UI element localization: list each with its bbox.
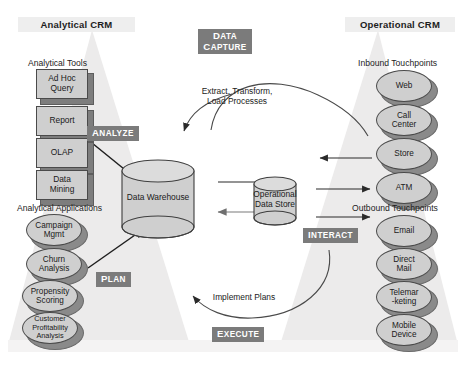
tool-label: Ad HocQuery: [36, 69, 88, 99]
touchpoint-label: DirectMail: [376, 248, 432, 280]
crm-architecture-diagram: Analytical CRM Operational CRM Analytica…: [0, 0, 465, 365]
tool-report[interactable]: Report: [36, 106, 88, 136]
touchpoint-label: MobileDevice: [376, 314, 432, 346]
badge-analyze-label: ANALYZE: [92, 128, 134, 139]
badge-data-capture-label: DATACAPTURE: [203, 31, 247, 52]
data-warehouse-label: Data Warehouse: [122, 193, 194, 203]
touchpoint-label: Email: [376, 215, 432, 247]
app-propensity-scoring[interactable]: PropensityScoring: [22, 280, 78, 312]
tool-label: Report: [36, 106, 88, 136]
badge-plan[interactable]: PLAN: [96, 272, 131, 287]
badge-interact-label: INTERACT: [308, 230, 353, 241]
tool-label: OLAP: [36, 138, 88, 168]
app-label: CampaignMgmt: [26, 214, 82, 246]
tool-ad-hoc-query[interactable]: Ad HocQuery: [36, 69, 88, 99]
touchpoint-label: Store: [376, 138, 432, 170]
touchpoint-label: ATM: [376, 172, 432, 204]
badge-data-capture[interactable]: DATACAPTURE: [198, 29, 252, 54]
touchpoint-telemarketing[interactable]: Telemar-keting: [376, 281, 432, 313]
tool-data-mining[interactable]: DataMining: [36, 170, 88, 200]
panel-title-operational-crm: Operational CRM: [345, 17, 455, 32]
implement-plans-label: Implement Plans: [182, 292, 306, 302]
badge-plan-label: PLAN: [101, 274, 126, 285]
etl-label: Extract, Transform,Load Processes: [175, 86, 299, 106]
app-label: PropensityScoring: [22, 280, 78, 312]
implement-plans-curve: [193, 250, 330, 318]
badge-interact[interactable]: INTERACT: [303, 228, 358, 243]
touchpoint-label: Web: [376, 70, 432, 102]
touchpoint-store[interactable]: Store: [376, 138, 432, 170]
badge-execute-label: EXECUTE: [217, 329, 259, 340]
touchpoint-direct-mail[interactable]: DirectMail: [376, 248, 432, 280]
touchpoint-label: Telemar-keting: [376, 281, 432, 313]
caption-analytical-applications: Analytical Applications: [17, 203, 102, 213]
touchpoint-mobile-device[interactable]: MobileDevice: [376, 314, 432, 346]
app-campaign-mgmt[interactable]: CampaignMgmt: [26, 214, 82, 246]
caption-inbound-touchpoints: Inbound Touchpoints: [358, 58, 437, 68]
caption-analytical-tools: Analytical Tools: [28, 58, 87, 68]
panel-title-analytical-crm: Analytical CRM: [18, 17, 135, 32]
app-label: ChurnAnalysis: [26, 248, 82, 280]
badge-execute[interactable]: EXECUTE: [212, 327, 264, 342]
operational-data-store-label: OperationalData Store: [250, 190, 300, 209]
touchpoint-label: CallCenter: [376, 104, 432, 136]
touchpoint-web[interactable]: Web: [376, 70, 432, 102]
app-label: CustomerProfitabilityAnalysis: [22, 312, 78, 344]
app-churn-analysis[interactable]: ChurnAnalysis: [26, 248, 82, 280]
app-customer-profitability-analysis[interactable]: CustomerProfitabilityAnalysis: [22, 312, 78, 344]
badge-analyze[interactable]: ANALYZE: [87, 126, 139, 141]
tool-olap[interactable]: OLAP: [36, 138, 88, 168]
caption-outbound-touchpoints: Outbound Touchpoints: [352, 203, 438, 213]
touchpoint-call-center[interactable]: CallCenter: [376, 104, 432, 136]
tool-label: DataMining: [36, 170, 88, 200]
touchpoint-email[interactable]: Email: [376, 215, 432, 247]
touchpoint-atm[interactable]: ATM: [376, 172, 432, 204]
